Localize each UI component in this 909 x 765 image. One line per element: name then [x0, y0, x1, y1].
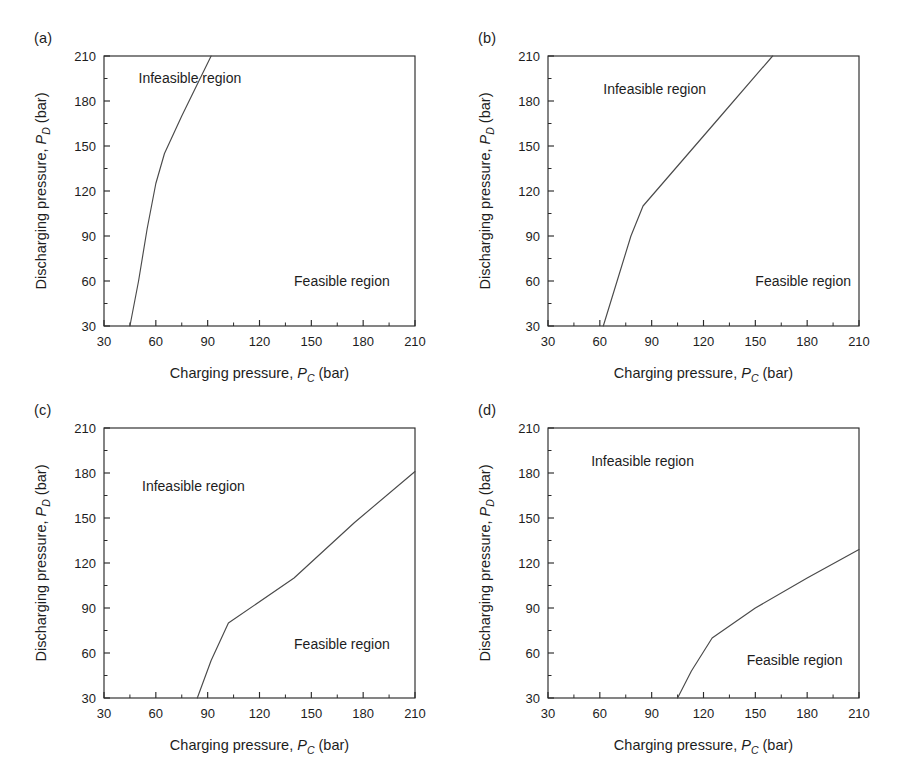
axis-ticks: 306090120150180210306090120150180210 — [518, 421, 870, 722]
y-tick-label: 90 — [82, 601, 96, 616]
y-tick-label: 60 — [526, 274, 540, 289]
x-tick-label: 60 — [149, 334, 163, 349]
y-tick-label: 60 — [82, 274, 96, 289]
y-tick-label: 180 — [518, 466, 540, 481]
y-tick-label: 120 — [518, 184, 540, 199]
x-axis-title: Charging pressure, PC (bar) — [614, 737, 793, 756]
y-tick-label: 60 — [82, 646, 96, 661]
panel-d: (d) 306090120150180210306090120150180210… — [456, 386, 896, 764]
feasible-region-label: Feasible region — [755, 273, 851, 289]
x-tick-label: 90 — [644, 334, 658, 349]
x-tick-label: 180 — [796, 706, 818, 721]
infeasible-region-label: Infeasible region — [603, 81, 706, 97]
x-axis-title: Charging pressure, PC (bar) — [170, 365, 349, 384]
y-tick-label: 90 — [82, 229, 96, 244]
y-tick-label: 150 — [74, 511, 96, 526]
x-axis-title: Charging pressure, PC (bar) — [614, 365, 793, 384]
x-tick-label: 90 — [644, 706, 658, 721]
y-tick-label: 150 — [518, 139, 540, 154]
x-tick-label: 30 — [541, 334, 555, 349]
infeasible-region-label: Infeasible region — [142, 478, 245, 494]
x-tick-label: 60 — [593, 706, 607, 721]
y-tick-label: 30 — [526, 691, 540, 706]
x-tick-label: 90 — [200, 706, 214, 721]
y-axis-title: Discharging pressure, PD (bar) — [477, 93, 496, 290]
y-tick-label: 210 — [518, 49, 540, 64]
x-tick-label: 30 — [97, 706, 111, 721]
x-tick-label: 180 — [352, 334, 374, 349]
y-tick-label: 180 — [518, 94, 540, 109]
feasibility-boundary-curve — [678, 550, 859, 699]
x-tick-label: 120 — [693, 706, 715, 721]
y-tick-label: 120 — [74, 556, 96, 571]
y-tick-label: 210 — [518, 421, 540, 436]
y-tick-label: 180 — [74, 466, 96, 481]
x-tick-label: 30 — [541, 706, 555, 721]
y-tick-label: 60 — [526, 646, 540, 661]
x-tick-label: 150 — [744, 334, 766, 349]
x-tick-label: 120 — [249, 334, 271, 349]
y-tick-label: 150 — [518, 511, 540, 526]
y-tick-label: 150 — [74, 139, 96, 154]
plot-c: 306090120150180210306090120150180210Infe… — [12, 386, 452, 764]
feasible-region-label: Feasible region — [747, 652, 843, 668]
panel-c: (c) 306090120150180210306090120150180210… — [12, 386, 452, 764]
axis-ticks: 306090120150180210306090120150180210 — [74, 421, 426, 722]
x-tick-label: 210 — [848, 706, 870, 721]
y-tick-label: 120 — [74, 184, 96, 199]
x-tick-label: 120 — [693, 334, 715, 349]
x-tick-label: 180 — [796, 334, 818, 349]
feasibility-boundary-curve — [130, 56, 211, 326]
infeasible-region-label: Infeasible region — [139, 70, 242, 86]
feasibility-boundary-curve — [603, 56, 772, 326]
plot-b: 306090120150180210306090120150180210Infe… — [456, 14, 896, 392]
x-tick-label: 150 — [300, 706, 322, 721]
x-tick-label: 210 — [404, 706, 426, 721]
x-tick-label: 210 — [404, 334, 426, 349]
x-tick-label: 30 — [97, 334, 111, 349]
x-tick-label: 90 — [200, 334, 214, 349]
figure-four-panel-feasibility: (a) 306090120150180210306090120150180210… — [0, 0, 909, 765]
y-tick-label: 90 — [526, 601, 540, 616]
axis-ticks: 306090120150180210306090120150180210 — [74, 49, 426, 350]
y-axis-title: Discharging pressure, PD (bar) — [33, 93, 52, 290]
y-tick-label: 90 — [526, 229, 540, 244]
y-tick-label: 180 — [74, 94, 96, 109]
infeasible-region-label: Infeasible region — [591, 453, 694, 469]
x-tick-label: 210 — [848, 334, 870, 349]
plot-d: 306090120150180210306090120150180210Infe… — [456, 386, 896, 764]
x-axis-title: Charging pressure, PC (bar) — [170, 737, 349, 756]
x-tick-label: 120 — [249, 706, 271, 721]
feasible-region-label: Feasible region — [294, 273, 390, 289]
panel-a: (a) 306090120150180210306090120150180210… — [12, 14, 452, 392]
plot-a: 306090120150180210306090120150180210Infe… — [12, 14, 452, 392]
feasible-region-label: Feasible region — [294, 636, 390, 652]
x-tick-label: 180 — [352, 706, 374, 721]
feasibility-boundary-curve — [197, 472, 415, 699]
y-tick-label: 30 — [82, 319, 96, 334]
x-tick-label: 60 — [593, 334, 607, 349]
plot-frame — [104, 428, 415, 698]
y-tick-label: 210 — [74, 49, 96, 64]
x-tick-label: 150 — [744, 706, 766, 721]
x-tick-label: 150 — [300, 334, 322, 349]
y-axis-title: Discharging pressure, PD (bar) — [477, 465, 496, 662]
y-axis-title: Discharging pressure, PD (bar) — [33, 465, 52, 662]
y-tick-label: 120 — [518, 556, 540, 571]
panel-b: (b) 306090120150180210306090120150180210… — [456, 14, 896, 392]
y-tick-label: 210 — [74, 421, 96, 436]
y-tick-label: 30 — [82, 691, 96, 706]
x-tick-label: 60 — [149, 706, 163, 721]
y-tick-label: 30 — [526, 319, 540, 334]
